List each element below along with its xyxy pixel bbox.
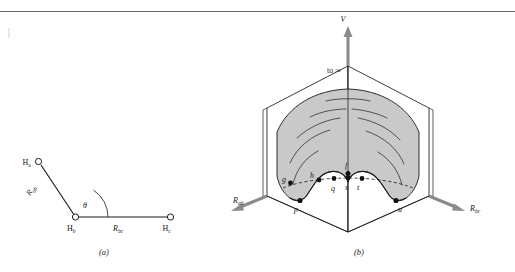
atom-hb-marker: [72, 214, 78, 220]
rbc-axis-label: Rbc: [469, 204, 481, 214]
box-right-outer-edge: [429, 110, 433, 198]
atom-hb-label: Hb: [67, 224, 76, 234]
point-g-marker: [288, 181, 293, 186]
bond-rab-label: Rab: [24, 183, 39, 198]
box-left-rim: [263, 108, 267, 110]
point-f-marker: [346, 171, 351, 176]
angle-arc: [94, 190, 109, 217]
atom-ha-marker: [35, 158, 41, 164]
atom-hc-label: Hc: [163, 224, 172, 234]
v-axis-label: V: [341, 15, 347, 24]
point-h-label: h: [310, 171, 314, 180]
point-q-marker: [332, 176, 337, 181]
point-s-label: s: [345, 183, 348, 192]
atom-ha-label: Ha: [23, 158, 32, 168]
box-left-outer-edge: [263, 110, 267, 198]
panel-b: V Rab Rbc to ∞ f g h p q s t u: [231, 15, 481, 257]
angle-theta-label: θ: [83, 201, 87, 210]
point-t-marker: [360, 176, 365, 181]
panel-b-caption: (b): [354, 247, 364, 257]
point-u-label: u: [398, 205, 402, 214]
box-right-rim: [429, 108, 433, 110]
point-s-marker: [346, 176, 351, 181]
rab-axis-label: Rab: [232, 196, 244, 206]
point-p-label: p: [293, 205, 298, 214]
bond-rbc-label: Rbc: [112, 224, 124, 234]
figure-root: Ha Hb Hc Rab Rbc θ (a): [0, 0, 515, 272]
point-u-marker: [393, 198, 398, 203]
v-axis-arrowhead: [344, 26, 353, 37]
to-infinity-label: to ∞: [327, 66, 341, 75]
panel-a: Ha Hb Hc Rab Rbc θ (a): [23, 158, 174, 258]
rbc-axis-arrowhead: [452, 204, 465, 212]
panel-a-caption: (a): [99, 247, 109, 257]
point-h-marker: [317, 178, 322, 183]
point-g-label: g: [282, 175, 286, 184]
atom-hc-marker: [167, 214, 173, 220]
point-q-label: q: [331, 184, 335, 193]
potential-energy-surface-figure: Ha Hb Hc Rab Rbc θ (a): [0, 0, 515, 272]
bond-ab-line: [41, 165, 74, 214]
point-p-marker: [297, 198, 302, 203]
